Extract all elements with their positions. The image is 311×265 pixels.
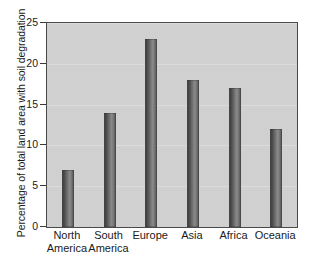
bar-chart-figure: Percentage of total land area with soil … [0,0,311,265]
x-axis-tick-label-line1: Oceania [255,229,296,241]
gridline [47,64,297,65]
gridline [47,23,297,24]
gridline [47,105,297,106]
bar [229,88,241,227]
x-axis-tick-label: Oceania [238,229,311,242]
y-axis-tick-label: 5 [14,180,38,190]
bar [104,113,116,227]
bar [62,170,74,227]
plot-area [46,22,298,228]
y-axis-label: Percentage of total land area with soil … [14,8,28,238]
bar [270,129,282,227]
y-axis-tick-label: 25 [14,17,38,27]
gridline [47,186,297,187]
x-axis-tick-label-line2: America [72,242,146,255]
bar [187,80,199,227]
gridline [47,145,297,146]
bar [145,39,157,227]
y-axis-tick-label: 10 [14,139,38,149]
y-axis-tick-label: 20 [14,58,38,68]
y-axis-tick-label: 15 [14,99,38,109]
